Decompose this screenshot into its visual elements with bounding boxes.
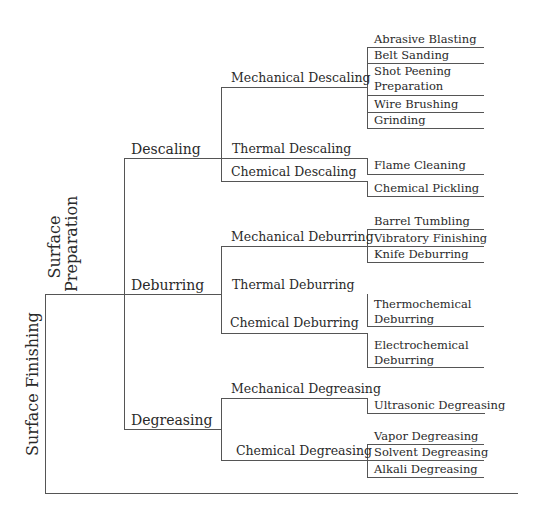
technique-ultrasonic-degreasing: Ultrasonic Degreasing [374, 398, 505, 413]
technique-thermochemical-deburring: Thermochemical Deburring [374, 297, 471, 327]
technique-electrochemical-line1: Electrochemical [374, 338, 469, 353]
technique-barrel-tumbling: Barrel Tumbling [374, 214, 470, 229]
technique-solvent-degreasing: Solvent Degreasing [374, 445, 488, 460]
method-mechanical-descaling: Mechanical Descaling [231, 72, 371, 85]
technique-flame-cleaning: Flame Cleaning [374, 158, 466, 173]
branch-label: Surface Preparation [46, 202, 80, 292]
technique-electrochemical-line2: Deburring [374, 353, 469, 368]
method-mechanical-degreasing: Mechanical Degreasing [231, 383, 381, 396]
method-chemical-descaling: Chemical Descaling [231, 166, 357, 179]
method-thermal-descaling: Thermal Descaling [232, 143, 351, 156]
method-chemical-deburring: Chemical Deburring [230, 317, 359, 330]
technique-belt-sanding: Belt Sanding [374, 48, 449, 63]
technique-chemical-pickling: Chemical Pickling [374, 181, 479, 196]
technique-electrochemical-deburring: Electrochemical Deburring [374, 338, 469, 368]
technique-shot-peening-preparation: Shot Peening Preparation [374, 64, 451, 94]
technique-vibratory-finishing: Vibratory Finishing [374, 231, 487, 246]
method-thermal-deburring: Thermal Deburring [232, 279, 355, 292]
branch-label-line2: Preparation [63, 202, 80, 292]
technique-thermochemical-line2: Deburring [374, 312, 471, 327]
technique-shot-peening-line1: Shot Peening [374, 64, 451, 79]
root-label: Surface Finishing [24, 312, 41, 456]
method-mechanical-deburring: Mechanical Deburring [231, 231, 374, 244]
category-descaling: Descaling [131, 142, 201, 156]
category-degreasing: Degreasing [131, 413, 212, 427]
technique-grinding: Grinding [374, 113, 426, 128]
branch-label-line1: Surface [46, 202, 63, 292]
technique-knife-deburring: Knife Deburring [374, 247, 469, 262]
technique-thermochemical-line1: Thermochemical [374, 297, 471, 312]
technique-vapor-degreasing: Vapor Degreasing [374, 429, 478, 444]
method-chemical-degreasing: Chemical Degreasing [236, 445, 372, 458]
technique-abrasive-blasting: Abrasive Blasting [374, 32, 477, 47]
technique-alkali-degreasing: Alkali Degreasing [374, 462, 478, 477]
technique-shot-peening-line2: Preparation [374, 79, 451, 94]
technique-wire-brushing: Wire Brushing [374, 97, 458, 112]
category-deburring: Deburring [131, 278, 204, 292]
